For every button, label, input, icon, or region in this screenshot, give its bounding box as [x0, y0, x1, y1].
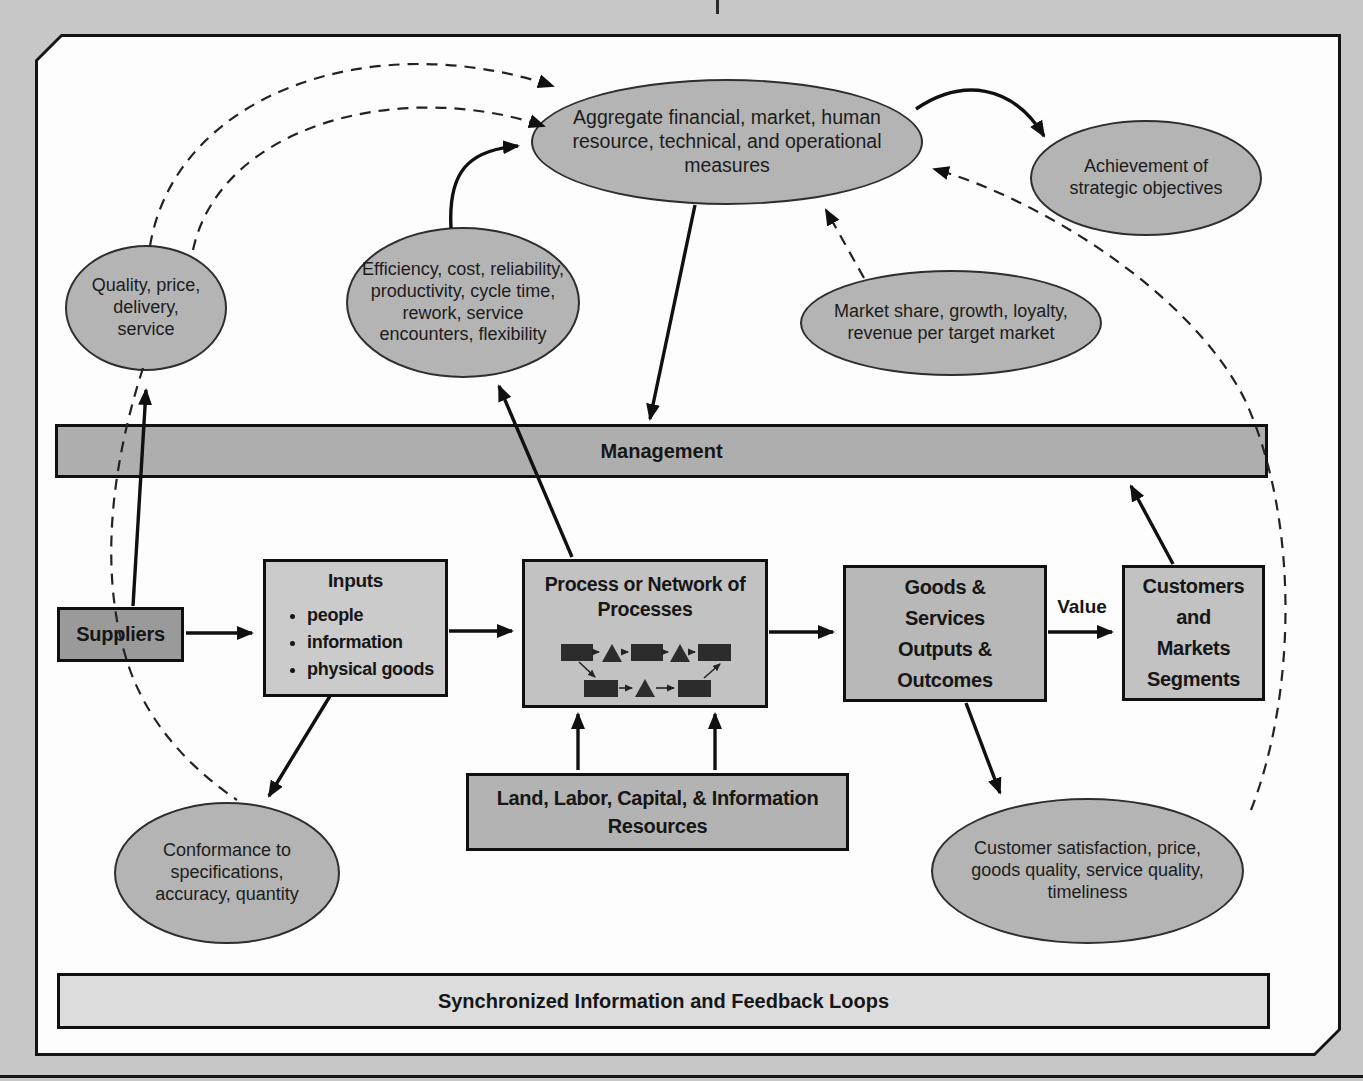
goods-services-box: Goods & Services Outputs & Outcomes — [843, 565, 1047, 702]
management-bar: Management — [55, 424, 1268, 478]
inputs-list: people information physical goods — [277, 602, 434, 683]
ellipse-conformance: Conformance to specifications, accuracy,… — [114, 802, 340, 944]
resources-box-label: Land, Labor, Capital, & Information Reso… — [488, 784, 828, 840]
inputs-item-physical-goods: physical goods — [307, 656, 434, 683]
feedback-loops-bar: Synchronized Information and Feedback Lo… — [57, 973, 1270, 1029]
value-label: Value — [1046, 596, 1118, 618]
customers-box: Customers and Markets Segments — [1122, 565, 1265, 701]
ellipse-efficiency-label: Efficiency, cost, reliability, productiv… — [348, 259, 578, 347]
ellipse-quality: Quality, price, delivery, service — [65, 245, 227, 371]
process-box: Process or Network of Processes — [522, 559, 768, 708]
ellipse-market-share: Market share, growth, loyalty, revenue p… — [800, 270, 1102, 376]
ellipse-aggregate-measures: Aggregate financial, market, human resou… — [531, 79, 923, 205]
ellipse-efficiency: Efficiency, cost, reliability, productiv… — [346, 227, 580, 378]
feedback-loops-bar-label: Synchronized Information and Feedback Lo… — [438, 990, 889, 1013]
resources-box: Land, Labor, Capital, & Information Reso… — [466, 773, 849, 851]
ellipse-market-share-label: Market share, growth, loyalty, revenue p… — [824, 301, 1079, 345]
inputs-box: Inputs people information physical goods — [263, 559, 448, 697]
ellipse-customer-satisfaction: Customer satisfaction, price, goods qual… — [931, 798, 1244, 944]
page-edge-line — [0, 1075, 1363, 1078]
inputs-item-people: people — [307, 602, 434, 629]
suppliers-box-label: Suppliers — [76, 623, 164, 646]
ellipse-conformance-label: Conformance to specifications, accuracy,… — [127, 840, 327, 906]
ellipse-quality-label: Quality, price, delivery, service — [81, 275, 211, 341]
inputs-item-information: information — [307, 629, 434, 656]
inputs-box-title: Inputs — [328, 570, 383, 592]
ellipse-achievement-label: Achievement of strategic objectives — [1044, 156, 1249, 200]
customers-box-label: Customers and Markets Segments — [1138, 571, 1250, 695]
crop-mark — [716, 0, 719, 14]
diagram-page: Aggregate financial, market, human resou… — [0, 0, 1363, 1081]
ellipse-aggregate-measures-label: Aggregate financial, market, human resou… — [552, 106, 902, 177]
ellipse-achievement: Achievement of strategic objectives — [1030, 120, 1262, 236]
process-box-label: Process or Network of Processes — [540, 572, 750, 623]
suppliers-box: Suppliers — [57, 607, 184, 662]
ellipse-customer-satisfaction-label: Customer satisfaction, price, goods qual… — [953, 838, 1223, 904]
process-network-diagram — [541, 636, 753, 704]
management-bar-label: Management — [600, 440, 722, 463]
goods-services-box-label: Goods & Services Outputs & Outcomes — [870, 572, 1020, 696]
